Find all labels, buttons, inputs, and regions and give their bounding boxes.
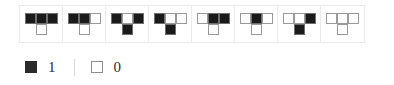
tetromino-cell-bottom-center (337, 24, 348, 35)
tetromino-glyph (240, 13, 273, 35)
tetromino-cell-top-right (133, 13, 144, 24)
tetromino-tile (321, 6, 364, 42)
tetromino-cell-top-right (305, 13, 316, 24)
tetromino-tile (106, 6, 149, 42)
tetromino-glyph (111, 13, 144, 35)
legend-item-filled: 1 (25, 60, 56, 75)
tetromino-glyph (326, 13, 359, 35)
tetromino-glyph (68, 13, 101, 35)
tetromino-cell-top-center (36, 13, 47, 24)
tetromino-tile (192, 6, 235, 42)
tetromino-tile (20, 6, 63, 42)
tetromino-cell-bottom-center (122, 24, 133, 35)
legend-label-filled: 1 (48, 60, 56, 75)
legend: 1 0 (25, 56, 121, 78)
legend-divider (74, 59, 75, 76)
tetromino-tile-strip (19, 5, 365, 43)
tetromino-cell-top-right (348, 13, 359, 24)
tetromino-tile (235, 6, 278, 42)
tetromino-cell-top-center (122, 13, 133, 24)
tetromino-cell-bottom-center (208, 24, 219, 35)
tetromino-cell-bottom-center (165, 24, 176, 35)
tetromino-cell-top-right (262, 13, 273, 24)
tetromino-cell-top-center (79, 13, 90, 24)
tetromino-tile (149, 6, 192, 42)
tetromino-cell-top-right (176, 13, 187, 24)
tetromino-cell-bottom-center (251, 24, 262, 35)
figure-root: 1 0 (0, 0, 394, 85)
tetromino-cell-top-center (294, 13, 305, 24)
tetromino-glyph (283, 13, 316, 35)
tetromino-cell-top-left (25, 13, 36, 24)
tetromino-cell-top-left (326, 13, 337, 24)
tetromino-cell-top-left (68, 13, 79, 24)
tetromino-cell-top-left (240, 13, 251, 24)
tetromino-tile (278, 6, 321, 42)
tetromino-cell-bottom-center (294, 24, 305, 35)
tetromino-cell-bottom-center (36, 24, 47, 35)
tetromino-cell-top-left (197, 13, 208, 24)
empty-square-icon (91, 61, 103, 73)
tetromino-cell-top-right (47, 13, 58, 24)
tetromino-cell-top-left (154, 13, 165, 24)
tetromino-cell-top-center (251, 13, 262, 24)
filled-square-icon (25, 61, 37, 73)
tetromino-cell-bottom-center (79, 24, 90, 35)
tetromino-cell-top-right (219, 13, 230, 24)
legend-label-empty: 0 (114, 60, 122, 75)
tetromino-cell-top-center (165, 13, 176, 24)
tetromino-cell-top-left (111, 13, 122, 24)
tetromino-cell-top-left (283, 13, 294, 24)
tetromino-cell-top-center (337, 13, 348, 24)
tetromino-glyph (25, 13, 58, 35)
legend-item-empty: 0 (91, 60, 122, 75)
tetromino-cell-top-right (90, 13, 101, 24)
tetromino-glyph (154, 13, 187, 35)
tetromino-tile (63, 6, 106, 42)
tetromino-glyph (197, 13, 230, 35)
tetromino-cell-top-center (208, 13, 219, 24)
